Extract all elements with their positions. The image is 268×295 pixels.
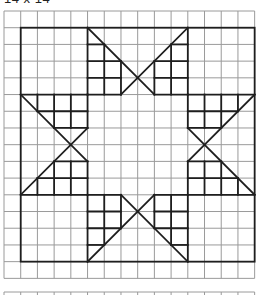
grid-lines [4,11,255,278]
grid-diagram [0,0,268,295]
